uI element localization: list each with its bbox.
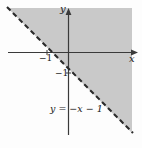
page-bleed-through-text (14, 126, 110, 135)
y-axis-label: y (60, 4, 66, 14)
x-tick-label-neg-one: −1 (39, 54, 52, 63)
x-axis-label: x (129, 54, 135, 64)
y-tick-label-neg-one: −1 (55, 69, 68, 78)
line-equation-label: y = −x − 1 (50, 104, 103, 114)
inequality-graph-figure: y x −1 −1 y = −x − 1 (0, 0, 142, 148)
